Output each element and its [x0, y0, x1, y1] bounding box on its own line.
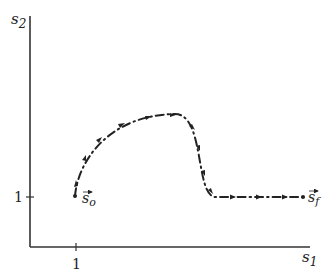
x-tick-label: 1	[72, 256, 81, 272]
trajectory-diagram: s2 s1 1 1 so sf	[0, 0, 326, 275]
end-label: sf	[308, 189, 321, 208]
start-label: so	[82, 190, 96, 209]
svg-text:sf: sf	[308, 189, 321, 208]
direction-arrows	[74, 113, 288, 200]
svg-text:so: so	[82, 190, 96, 209]
start-point	[73, 194, 77, 198]
y-tick-label: 1	[14, 189, 23, 205]
x-axis-label: s1	[302, 248, 317, 269]
y-axis-label: s2	[11, 10, 26, 31]
end-point	[301, 195, 305, 199]
